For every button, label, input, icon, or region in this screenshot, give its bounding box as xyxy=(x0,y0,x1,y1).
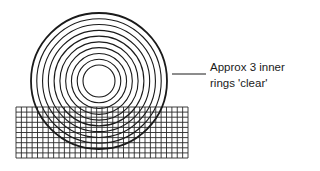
inner-ring xyxy=(83,65,115,97)
outer-ring xyxy=(31,13,167,149)
inner-ring xyxy=(48,30,149,131)
inner-ring xyxy=(66,48,133,115)
annotation-line-1: Approx 3 inner xyxy=(210,62,285,74)
inner-ring xyxy=(37,19,161,143)
concentric-rings xyxy=(31,13,167,149)
inner-ring xyxy=(71,53,126,108)
annotation-line-2: rings 'clear' xyxy=(210,78,267,90)
inner-ring xyxy=(77,59,121,103)
